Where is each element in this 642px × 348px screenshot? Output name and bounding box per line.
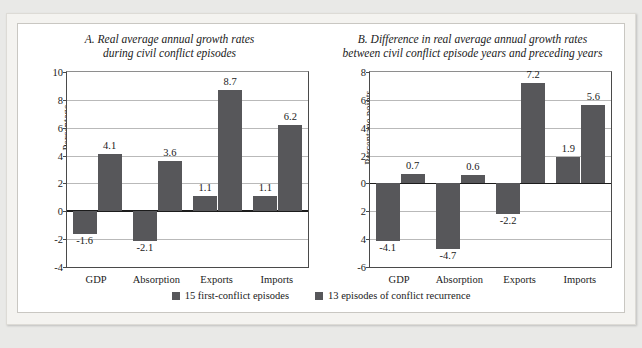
bar	[73, 211, 97, 233]
bar-value-label: 1.1	[199, 182, 212, 193]
y-axis-tick-mark	[366, 239, 370, 240]
gridline	[370, 100, 611, 101]
bar	[556, 157, 580, 183]
y-axis-tick-label: -4	[54, 262, 63, 273]
chart-panel-b: B. Difference in real average annual gro…	[321, 24, 624, 312]
bar	[278, 125, 302, 211]
legend-label: 15 first-conflict episodes	[185, 290, 289, 301]
top-caption	[0, 0, 642, 8]
panel-b-title: B. Difference in real average annual gro…	[327, 32, 618, 60]
y-axis-tick-mark	[366, 72, 370, 73]
gridline	[67, 100, 308, 101]
y-axis-tick-label: 10	[53, 67, 64, 78]
bar-value-label: 5.6	[587, 91, 600, 102]
bar-value-label: 0.6	[466, 161, 479, 172]
chart-panel-a: A. Real average annual growth rates duri…	[18, 24, 321, 312]
x-axis-tick-label: Exports	[503, 274, 536, 285]
y-axis-tick-mark	[63, 267, 67, 268]
bar	[436, 183, 460, 248]
bar	[218, 90, 242, 211]
bar-value-label: 3.6	[163, 147, 176, 158]
bar	[581, 105, 605, 183]
bar-value-label: -2.1	[137, 242, 154, 253]
x-axis-tick-label: GDP	[389, 274, 410, 285]
y-axis-tick-mark	[63, 211, 67, 212]
y-axis-tick-mark	[366, 183, 370, 184]
bar	[193, 196, 217, 211]
figure-outer-frame: A. Real average annual growth rates duri…	[6, 13, 636, 325]
y-axis-tick-mark	[63, 239, 67, 240]
bar-value-label: 0.7	[406, 160, 419, 171]
x-axis-tick-label: Exports	[200, 274, 233, 285]
y-axis-tick-mark	[366, 156, 370, 157]
bar-value-label: 6.2	[284, 111, 297, 122]
gridline	[67, 128, 308, 129]
bar	[401, 174, 425, 184]
y-axis-tick-mark	[63, 128, 67, 129]
bar-value-label: 1.9	[562, 143, 575, 154]
y-axis-tick-label: -2	[54, 234, 63, 245]
figure-inner-panel: A. Real average annual growth rates duri…	[17, 23, 625, 313]
legend-item-recurrence: 13 episodes of conflict recurrence	[315, 290, 470, 301]
chart-legend: 15 first-conflict episodes 13 episodes o…	[18, 290, 624, 301]
y-axis-tick-mark	[63, 183, 67, 184]
bar	[376, 183, 400, 240]
bar-value-label: -1.6	[76, 235, 93, 246]
x-axis-tick-label: Absorption	[133, 274, 180, 285]
y-axis-tick-mark	[366, 211, 370, 212]
bar	[521, 83, 545, 183]
bar	[461, 175, 485, 183]
panel-a-title-line2: during civil conflict episodes	[24, 46, 315, 60]
y-axis-tick-label: -6	[357, 262, 366, 273]
x-axis-tick-label: Imports	[261, 274, 294, 285]
legend-swatch-icon	[315, 292, 323, 300]
y-axis-tick-mark	[63, 156, 67, 157]
x-axis-tick-label: GDP	[86, 274, 107, 285]
bar	[496, 183, 520, 214]
y-axis-tick-mark	[63, 100, 67, 101]
bar-value-label: 7.2	[527, 69, 540, 80]
bar-value-label: -4.7	[440, 250, 457, 261]
panel-b-title-line2: between civil conflict episode years and…	[327, 46, 618, 60]
gridline	[370, 128, 611, 129]
bar-value-label: -4.1	[379, 242, 396, 253]
bar	[98, 154, 122, 211]
legend-swatch-icon	[172, 292, 180, 300]
panel-a-plot-area: 1086420-2-4-1.64.1-2.13.61.18.71.16.2	[66, 71, 309, 268]
y-axis-tick-mark	[366, 100, 370, 101]
bar-value-label: 4.1	[103, 140, 116, 151]
y-axis-tick-mark	[366, 128, 370, 129]
legend-label: 13 episodes of conflict recurrence	[328, 290, 470, 301]
gridline	[370, 239, 611, 240]
panel-a-title: A. Real average annual growth rates duri…	[24, 32, 315, 60]
panel-b-plot-area: 8642024-6-4.10.7-4.70.6-2.27.21.95.6	[369, 71, 612, 268]
legend-item-first-conflict: 15 first-conflict episodes	[172, 290, 289, 301]
bar	[158, 161, 182, 211]
x-axis-tick-label: Absorption	[436, 274, 483, 285]
bar	[133, 211, 157, 240]
gridline	[67, 239, 308, 240]
x-axis-tick-label: Imports	[564, 274, 597, 285]
gridline	[370, 211, 611, 212]
bar	[253, 196, 277, 211]
bar-value-label: -2.2	[500, 215, 517, 226]
panel-a-title-line1: A. Real average annual growth rates	[24, 32, 315, 46]
panel-b-title-line1: B. Difference in real average annual gro…	[327, 32, 618, 46]
bar-value-label: 8.7	[224, 76, 237, 87]
y-axis-tick-mark	[366, 267, 370, 268]
bar-value-label: 1.1	[259, 182, 272, 193]
y-axis-tick-mark	[63, 72, 67, 73]
